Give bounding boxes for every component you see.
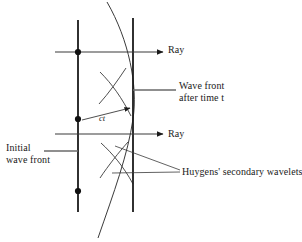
source-point-bottom xyxy=(75,188,81,194)
ray-bottom-label: Ray xyxy=(168,128,184,140)
leader-huygens-lower xyxy=(112,172,180,173)
initial-wave-front-label: Initial wave front xyxy=(6,142,50,165)
wave-front-after-time-label: Wave front after time t xyxy=(179,80,224,103)
wave-front-after-line2: after time xyxy=(179,92,221,103)
ray-top-label: Ray xyxy=(168,44,184,56)
initial-wave-front-line1: Initial xyxy=(6,142,31,153)
wavelet-arc-mid-a xyxy=(100,72,131,116)
ct-distance-arrow xyxy=(82,108,130,120)
source-point-middle xyxy=(75,116,81,122)
huygens-secondary-wavelets-label: Huygens' secondary wavelets xyxy=(182,166,302,178)
source-point-top xyxy=(75,49,81,55)
wave-front-after-line1: Wave front xyxy=(179,80,224,91)
ct-distance-label: ct xyxy=(99,113,105,125)
wave-front-time-symbol: t xyxy=(221,92,224,103)
initial-wave-front-line2: wave front xyxy=(6,154,50,165)
diagram-canvas xyxy=(0,0,302,242)
huygens-wave-diagram: Ray Ray Wave front after time t Initial … xyxy=(0,0,302,242)
wavelet-arc-low-a xyxy=(101,143,133,184)
